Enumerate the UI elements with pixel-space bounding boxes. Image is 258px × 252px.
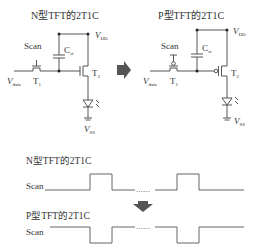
oled-diode-icon (222, 98, 232, 105)
vss-label: VSS (84, 124, 95, 135)
vdata-label: Vdata (7, 76, 22, 87)
p-ellipsis: …… (136, 223, 150, 231)
n-ellipsis: …… (136, 186, 150, 194)
n-scan-waveform-2 (155, 174, 244, 190)
scan-label: Scan (161, 41, 179, 51)
n-waveform-title: N型TFT的2T1C (26, 155, 91, 166)
t2-label: T2 (231, 68, 240, 79)
n-scan-label: Scan (26, 181, 44, 191)
light-emission-icon (96, 104, 99, 107)
n-scan-waveform (45, 174, 135, 190)
p-waveform-title: P型TFT的2T1C (26, 210, 90, 221)
vdd-label: VDD (233, 26, 246, 37)
waveforms: N型TFT的2T1C Scan …… P型TFT的2T1C Scan …… (26, 155, 244, 243)
n-type-circuit: N型TFT的2T1C VDD Cst Scan Vdata T1 T2 (7, 9, 108, 135)
node-dot (196, 70, 199, 73)
cst-label: Cst (64, 45, 74, 56)
scan-label: Scan (24, 41, 42, 51)
down-arrow-icon (133, 201, 153, 212)
p-circuit-title: P型TFT的2T1C (158, 9, 224, 21)
p-scan-waveform (50, 227, 135, 243)
light-emission-icon (96, 100, 99, 103)
cst-label: Cst (202, 43, 212, 54)
pmos-bubble-icon (214, 69, 218, 73)
t1-label: T1 (33, 76, 42, 87)
node-dot (58, 70, 61, 73)
p-scan-waveform-2 (155, 227, 244, 243)
light-emission-icon (235, 97, 238, 100)
vss-label: VSS (234, 116, 245, 127)
t1-transistor (33, 68, 40, 71)
t2-label: T2 (92, 68, 101, 79)
n-circuit-title: N型TFT的2T1C (31, 9, 99, 21)
t1-transistor (170, 68, 177, 71)
oled-diode-icon (83, 100, 93, 107)
pmos-bubble-icon (172, 62, 176, 66)
t2-transistor (222, 30, 228, 98)
vdata-label: Vdata (143, 76, 158, 87)
t2-transistor (83, 34, 88, 100)
vdd-label: VDD (95, 30, 108, 41)
p-scan-label: Scan (26, 227, 44, 237)
right-arrow-icon (117, 61, 131, 79)
light-emission-icon (235, 101, 238, 104)
t1-label: T1 (170, 76, 179, 87)
2t1c-diagram: N型TFT的2T1C VDD Cst Scan Vdata T1 T2 (0, 0, 258, 252)
p-type-circuit: P型TFT的2T1C VDD Cst Scan Vdata T1 T2 (143, 9, 246, 127)
